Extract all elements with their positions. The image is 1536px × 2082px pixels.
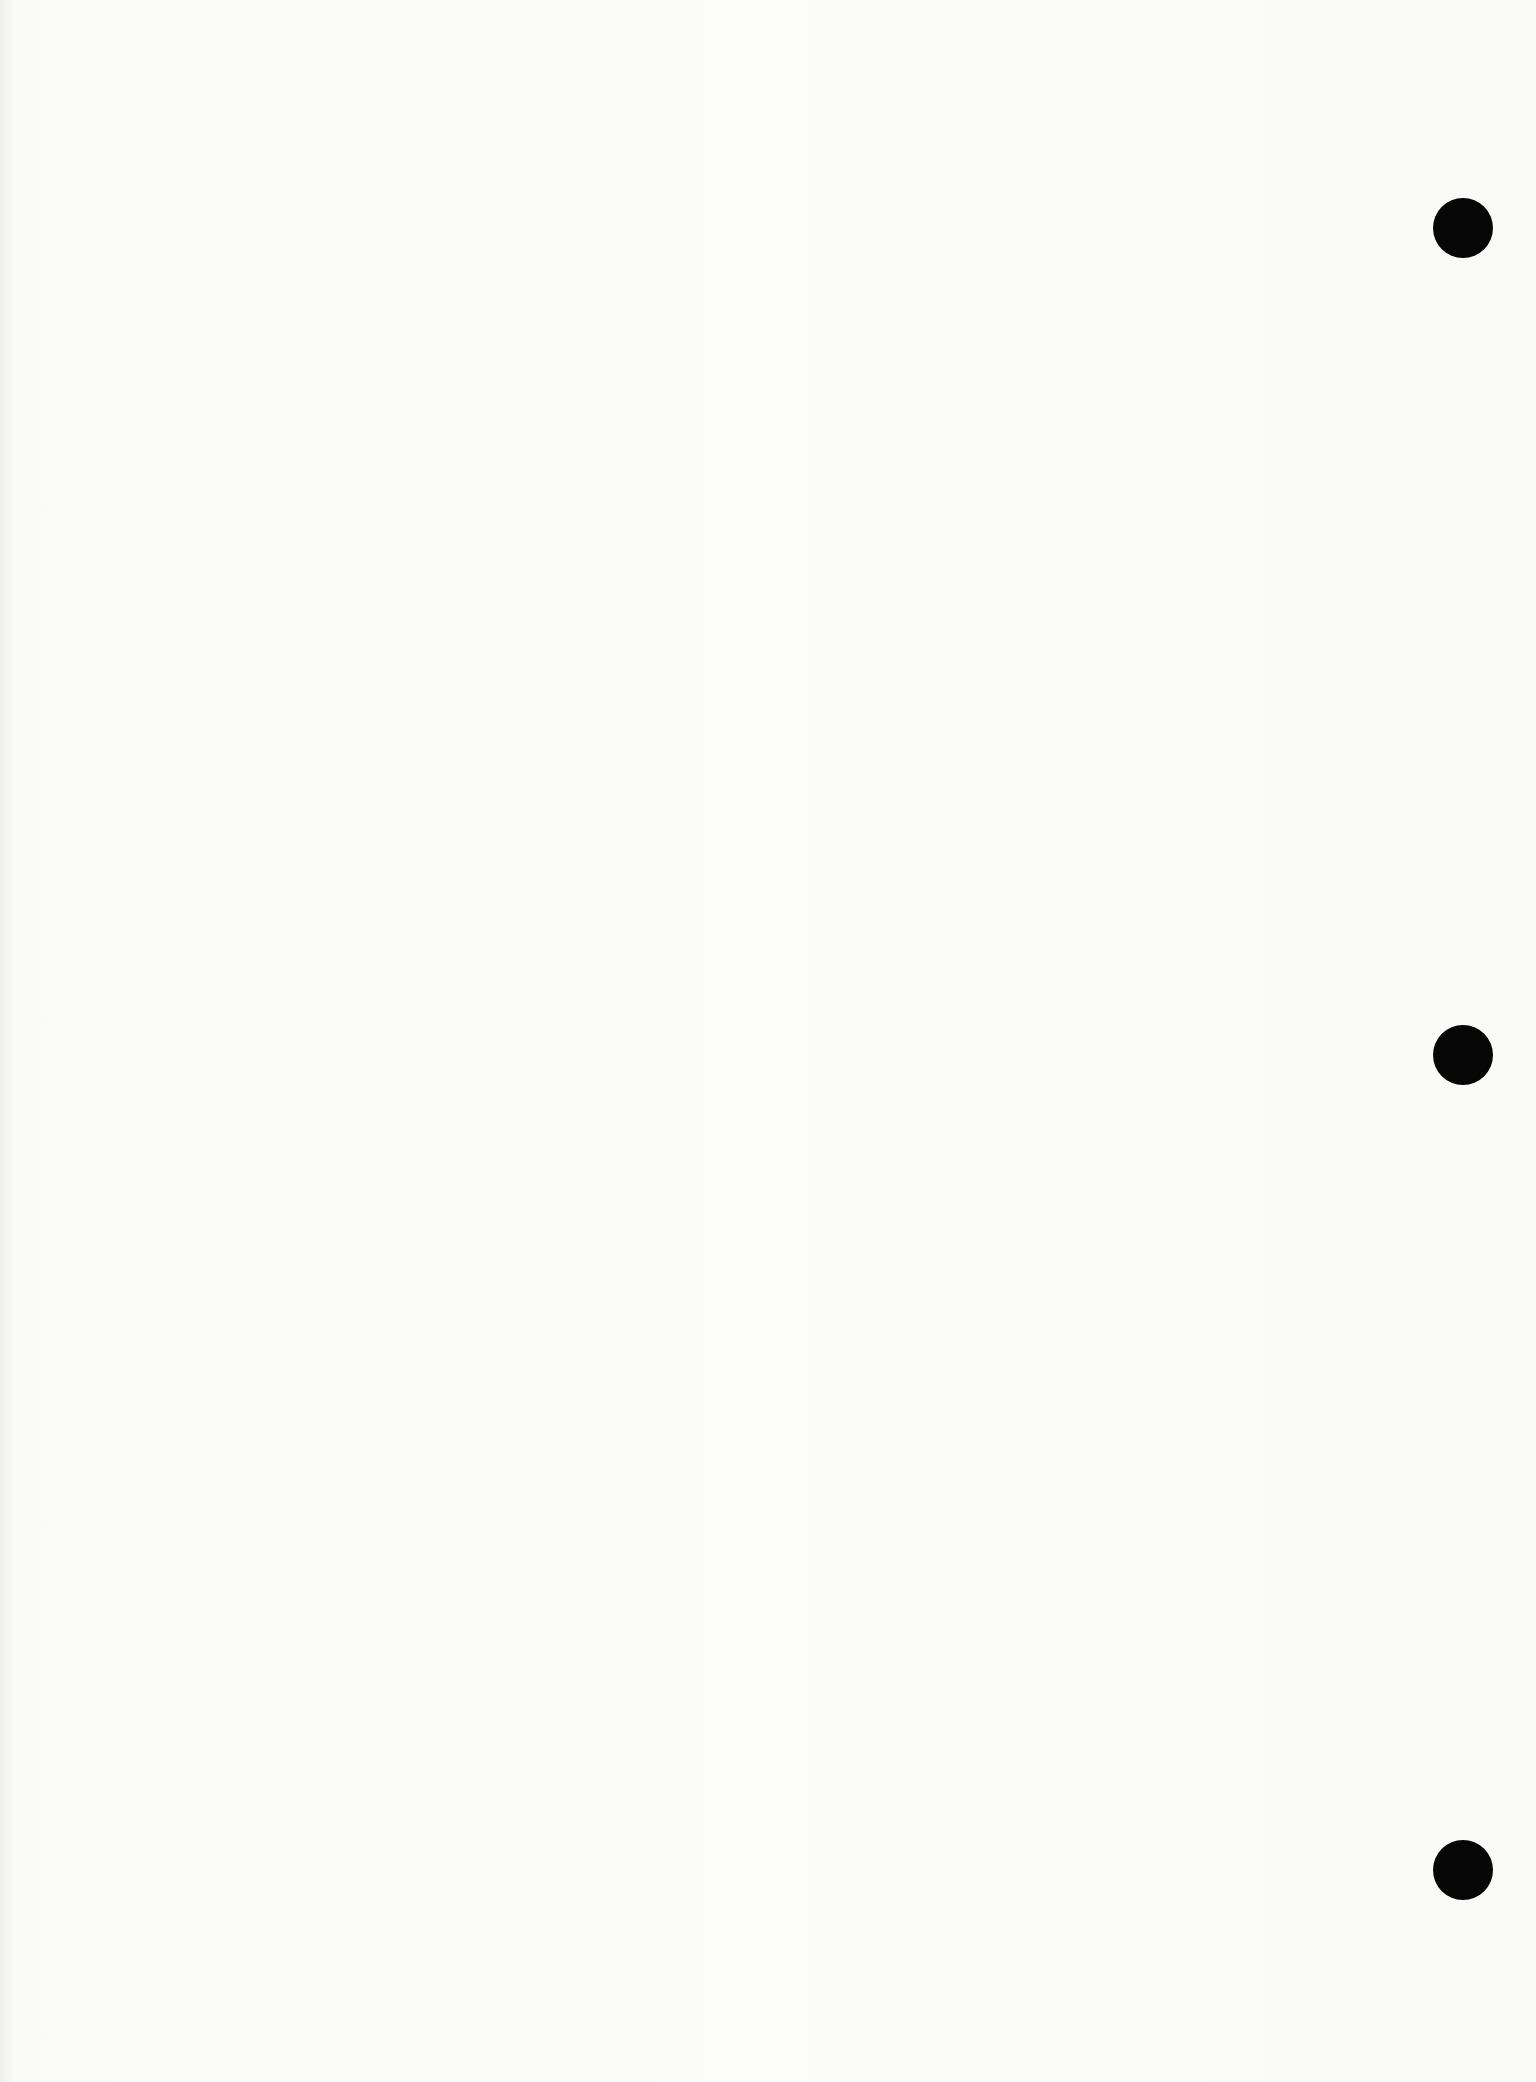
punch-hole-top [1433,198,1493,258]
blank-page [0,0,1536,2082]
punch-hole-bottom [1433,1840,1493,1900]
punch-hole-middle [1433,1025,1493,1085]
